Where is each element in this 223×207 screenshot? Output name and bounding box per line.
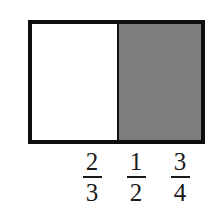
fraction-choice-2[interactable]: 1 2 xyxy=(114,150,158,205)
fraction-choice-2-numerator: 1 xyxy=(114,150,158,174)
bar-segment-shaded xyxy=(119,24,201,140)
figure-canvas: 2 3 1 2 3 4 xyxy=(0,0,223,207)
bar-segment-unshaded xyxy=(32,24,119,140)
fraction-choice-1[interactable]: 2 3 xyxy=(70,150,114,205)
fraction-choice-row: 2 3 1 2 3 4 xyxy=(62,150,202,205)
fraction-choice-2-rule xyxy=(127,176,146,178)
fraction-choice-1-rule xyxy=(83,176,102,178)
fraction-bar-model xyxy=(28,20,205,144)
fraction-choice-1-numerator: 2 xyxy=(70,150,114,174)
fraction-choice-3-denominator: 4 xyxy=(158,181,202,205)
fraction-choice-3[interactable]: 3 4 xyxy=(158,150,202,205)
fraction-choice-3-rule xyxy=(171,176,190,178)
fraction-choice-2-denominator: 2 xyxy=(114,181,158,205)
fraction-choice-1-denominator: 3 xyxy=(70,181,114,205)
fraction-choice-3-numerator: 3 xyxy=(158,150,202,174)
